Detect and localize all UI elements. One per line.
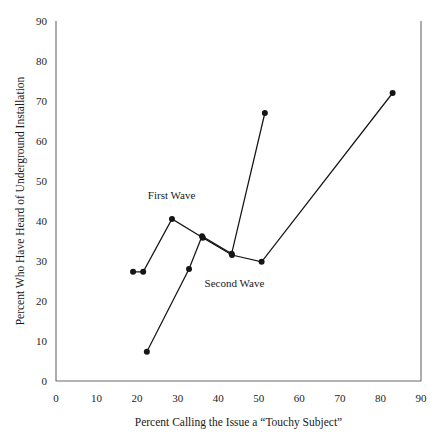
- data-point: [229, 251, 235, 257]
- x-tick-label: 10: [91, 392, 103, 404]
- data-point: [144, 349, 150, 355]
- data-point: [140, 269, 146, 275]
- x-tick-label: 60: [294, 392, 306, 404]
- y-tick-label: 60: [36, 135, 48, 147]
- x-tick-label: 50: [253, 392, 265, 404]
- y-tick-label: 90: [36, 15, 48, 27]
- plot-frame: [56, 21, 421, 381]
- x-tick-label: 20: [132, 392, 144, 404]
- data-point: [259, 259, 265, 265]
- chart-figure: 0102030405060708090 0102030405060708090 …: [0, 0, 445, 438]
- series-label-second-wave: Second Wave: [205, 277, 265, 289]
- data-point: [130, 269, 136, 275]
- data-point: [390, 90, 396, 96]
- x-tick-label: 80: [375, 392, 387, 404]
- x-tick-label: 30: [172, 392, 184, 404]
- x-tick-label: 0: [53, 392, 59, 404]
- x-tick-label: 90: [416, 392, 428, 404]
- y-tick-label: 20: [36, 295, 48, 307]
- y-tick-label: 80: [36, 55, 48, 67]
- y-tick-label: 10: [36, 335, 48, 347]
- y-tick-label: 30: [36, 255, 48, 267]
- y-tick-label: 0: [42, 375, 48, 387]
- x-axis-ticks: 0102030405060708090: [53, 392, 427, 404]
- x-tick-label: 40: [213, 392, 225, 404]
- y-tick-label: 40: [36, 215, 48, 227]
- data-point: [262, 110, 268, 116]
- y-axis-ticks: 0102030405060708090: [36, 15, 48, 387]
- y-tick-label: 50: [36, 175, 48, 187]
- y-tick-label: 70: [36, 95, 48, 107]
- data-point: [169, 216, 175, 222]
- x-axis-title: Percent Calling the Issue a “Touchy Subj…: [135, 416, 342, 429]
- x-tick-label: 70: [334, 392, 346, 404]
- axis-titles: Percent Calling the Issue a “Touchy Subj…: [14, 76, 342, 429]
- data-series-group: [130, 90, 396, 355]
- line-chart-canvas: 0102030405060708090 0102030405060708090 …: [0, 0, 445, 438]
- plot-box-outline: [56, 21, 421, 381]
- data-point: [186, 266, 192, 272]
- series-label-first-wave: First Wave: [148, 189, 196, 201]
- y-axis-title: Percent Who Have Heard of Underground In…: [14, 76, 27, 325]
- data-point: [199, 233, 205, 239]
